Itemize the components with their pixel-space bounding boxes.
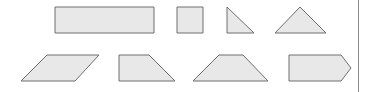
isosceles-triangle-shape: [275, 7, 326, 33]
parallelogram-shape: [21, 55, 99, 81]
square-shape: [177, 7, 203, 33]
rectangle-shape: [55, 7, 154, 33]
shapes-diagram: [0, 0, 371, 92]
right-triangle-shape: [227, 7, 254, 33]
isosceles-trapezoid-shape: [193, 55, 268, 81]
pentagon-arrow-shape: [289, 55, 351, 81]
right-trapezoid-shape: [119, 55, 175, 81]
